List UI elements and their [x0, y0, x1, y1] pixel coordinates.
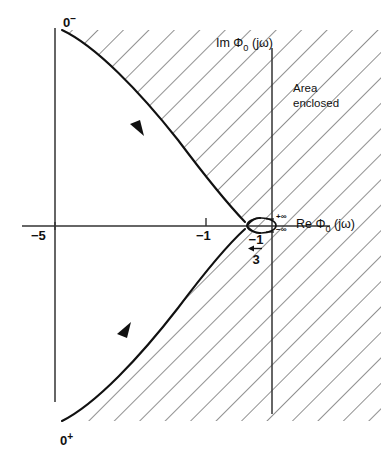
label-plus-infinity: +∞: [276, 213, 286, 222]
critical-point-fraction-label: −1 3: [243, 233, 269, 266]
nyquist-plot-figure: 0− 0+ Im Φ0 (jω) Re Φ0 (jω) −5 −1 Area e…: [0, 0, 381, 462]
tick-label-minus-five: −5: [31, 229, 46, 244]
direction-arrow-lower-branch: [117, 322, 131, 338]
label-minus-infinity: −∞: [276, 226, 286, 235]
direction-arrow-upper-branch: [130, 120, 144, 136]
critical-point-denominator: 3: [243, 253, 269, 266]
label-zero-plus: 0+: [60, 431, 73, 449]
critical-point-arrow-slot: [243, 246, 269, 253]
area-enclosed-label-line2: enclosed: [293, 97, 339, 110]
area-enclosed-label-line1: Area: [293, 82, 317, 95]
tick-label-minus-one: −1: [196, 229, 211, 244]
imaginary-axis-label: Im Φ0 (jω): [216, 36, 273, 53]
label-zero-minus: 0−: [63, 13, 76, 31]
real-axis-label: Re Φ0 (jω): [296, 217, 355, 234]
critical-point-numerator: −1: [243, 233, 269, 246]
